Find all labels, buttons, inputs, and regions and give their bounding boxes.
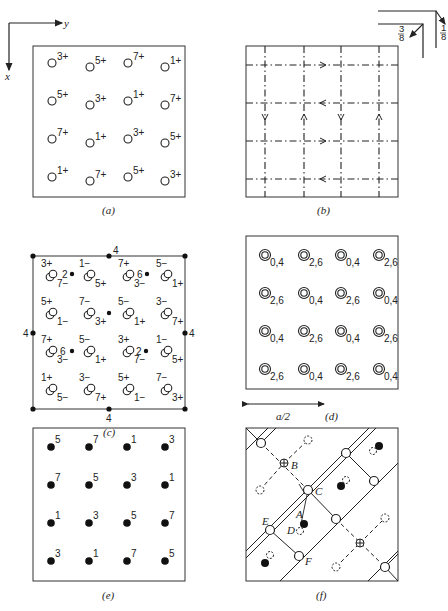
height-label: 1: [131, 434, 137, 445]
height-label: 2,6: [346, 371, 360, 382]
atom-open: [48, 135, 56, 143]
height-label: 3: [169, 434, 175, 445]
atom-open: [48, 59, 56, 67]
pair-label-upper: 3+: [41, 258, 53, 269]
height-label: 1: [55, 510, 61, 521]
height-label: 0,4: [270, 257, 284, 268]
atom-open: [124, 59, 132, 67]
pair-label-upper: 5−: [79, 334, 91, 345]
pair-label-upper: 5−: [118, 296, 130, 307]
label-E: E: [261, 515, 269, 527]
pair-label-lower: 7−: [134, 354, 146, 365]
height-label: 7: [169, 510, 175, 521]
axis-4-bottom: 4: [106, 413, 112, 424]
panel-e-atoms: 5713753113573175: [47, 434, 175, 565]
pair-label-upper: 1−: [79, 258, 91, 269]
atom-open: [86, 63, 94, 71]
charge-label: 3+: [170, 169, 182, 180]
panel-c-atom-pairs: 3+7−1−5+7+3−5−1+5+1−7−3+5−1+3−7+7+3−5−1+…: [41, 258, 184, 403]
charge-label: 1+: [133, 89, 145, 100]
x-axis-label: x: [4, 70, 10, 82]
atom-open: [86, 101, 94, 109]
pair-label-upper: 3+: [118, 334, 130, 345]
charge-label: 5+: [170, 131, 182, 142]
charge-label: 7+: [57, 127, 69, 138]
height-label: 7: [93, 434, 99, 445]
height-label: 5: [169, 548, 175, 559]
height-label: 2,6: [346, 295, 360, 306]
panel-a-frame: [33, 46, 185, 197]
height-label: 7: [55, 472, 61, 483]
charge-label: 7+: [170, 93, 182, 104]
panel-d-caption: (d): [325, 410, 338, 423]
height-label: 5: [55, 434, 61, 445]
pair-label-upper: 3−: [79, 372, 91, 383]
atom-open: [124, 135, 132, 143]
height-label: 1: [169, 472, 175, 483]
pair-label-lower: 1+: [95, 354, 107, 365]
pair-label-upper: 7+: [41, 334, 53, 345]
pair-label-lower: 7+: [95, 392, 107, 403]
height-label: 3: [131, 472, 137, 483]
fraction-8-denominator: 8: [399, 32, 404, 43]
pair-label-lower: 3−: [57, 354, 69, 365]
pair-label-lower: 3+: [95, 316, 107, 327]
panel-a-atoms: 3+5+7+1+5+3+1+7+7+1+3+5+1+7+5+3+: [48, 51, 182, 185]
axis-4-left: 4: [23, 328, 29, 339]
pair-label-upper: 7−: [156, 372, 168, 383]
pair-label-upper: 5−: [156, 258, 168, 269]
scale-bar-label: a/2: [276, 410, 291, 422]
pair-label-lower: 1−: [134, 392, 146, 403]
atom-open: [86, 139, 94, 147]
height-label: 0,4: [384, 295, 398, 306]
panel-a-caption: (a): [102, 204, 115, 217]
charge-label: 5+: [57, 89, 69, 100]
charge-label: 3+: [133, 127, 145, 138]
height-label: 0,4: [309, 371, 323, 382]
atom-open: [86, 177, 94, 185]
atom-open: [48, 173, 56, 181]
pair-label-upper: 7−: [79, 296, 91, 307]
label-B: B: [291, 459, 298, 471]
pair-label-lower: 3+: [172, 392, 184, 403]
pair-label-lower: 1−: [57, 316, 69, 327]
label-C: C: [315, 485, 323, 497]
panel-f-caption: (f): [316, 589, 327, 602]
screw-axis-legend: [378, 11, 445, 58]
pair-label-lower: 5+: [95, 278, 107, 289]
pair-label-lower: 5−: [57, 392, 69, 403]
height-label: 0,4: [346, 333, 360, 344]
pair-label-upper: 1−: [156, 334, 168, 345]
height-label: 2,6: [270, 371, 284, 382]
height-label: 3: [55, 548, 61, 559]
panel-d-atoms: 0,42,60,42,62,60,42,60,40,42,60,42,62,60…: [260, 250, 399, 383]
height-label: 2,6: [270, 295, 284, 306]
pair-label-lower: 1+: [172, 278, 184, 289]
diagram-canvas: y x 3 8 1 8 3+5+7+1+5+3+1+7+7+1+3+5+1+7+…: [0, 0, 448, 611]
charge-label: 5+: [95, 55, 107, 66]
label-F: F: [304, 555, 312, 567]
panel-b-screw-axes: [246, 46, 398, 197]
y-axis-label: y: [63, 17, 69, 29]
height-label: 0,4: [309, 295, 323, 306]
axis-4-right: 4: [189, 328, 195, 339]
pair-label-lower: 3−: [134, 278, 146, 289]
atom-open: [161, 139, 169, 147]
atom-open: [124, 97, 132, 105]
height-label: 3: [93, 510, 99, 521]
charge-label: 3+: [57, 51, 69, 62]
panel-b-frame: [246, 46, 398, 197]
charge-label: 1+: [95, 131, 107, 142]
height-label: 5: [131, 510, 137, 521]
atom-open: [48, 97, 56, 105]
charge-label: 7+: [133, 51, 145, 62]
pair-label-upper: 1+: [41, 372, 53, 383]
panel-b-glide-arrows: [262, 62, 382, 182]
atom-open: [124, 173, 132, 181]
height-label: 2,6: [384, 257, 398, 268]
pair-label-upper: 3−: [156, 296, 168, 307]
charge-label: 5+: [133, 165, 145, 176]
atom-open: [161, 177, 169, 185]
pair-label-upper: 7+: [118, 258, 130, 269]
height-label: 1: [93, 548, 99, 559]
